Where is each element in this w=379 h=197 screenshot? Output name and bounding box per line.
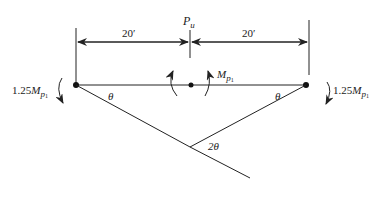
center-angle-label: 2θ xyxy=(208,140,220,152)
extension-mechanism-line xyxy=(190,147,250,178)
center-moment-label: Mp1 xyxy=(216,68,234,83)
left-span-label: 20′ xyxy=(122,27,135,39)
load-label: Pu xyxy=(182,14,195,30)
beam-mechanism-diagram: 20′ 20′ Pu θ θ 2θ 1.25Mp1 1.25Mp1 Mp1 xyxy=(0,0,379,197)
left-moment-arrow-icon xyxy=(59,78,63,103)
right-moment-label: 1.25Mp1 xyxy=(333,84,369,99)
center-hinge-dot xyxy=(189,83,194,88)
right-moment-arrow-icon xyxy=(326,82,330,104)
right-span-label: 20′ xyxy=(242,27,255,39)
left-mechanism-line xyxy=(76,85,190,147)
center-left-moment-arrow-icon xyxy=(171,71,177,96)
left-moment-label: 1.25Mp1 xyxy=(12,84,48,99)
center-right-moment-arrow-icon xyxy=(205,71,209,96)
left-angle-label: θ xyxy=(108,90,114,102)
right-angle-label: θ xyxy=(275,90,281,102)
right-mechanism-line xyxy=(190,85,306,147)
